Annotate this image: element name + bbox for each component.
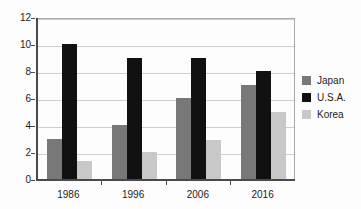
legend-label: Korea	[317, 109, 344, 120]
x-tick-mark	[101, 181, 102, 185]
legend-item: Korea	[302, 106, 360, 123]
y-tick-label: 6	[3, 94, 31, 104]
chart-legend: JapanU.S.A.Korea	[302, 72, 360, 123]
y-axis-line	[36, 18, 38, 180]
bar	[62, 44, 77, 179]
legend-item: Japan	[302, 72, 360, 89]
y-tick-mark	[31, 45, 35, 46]
x-tick-label: 2006	[187, 189, 209, 200]
bar	[112, 125, 127, 179]
bar	[256, 71, 271, 179]
bar	[241, 85, 256, 180]
y-tick-mark	[31, 18, 35, 19]
y-tick-label: 4	[3, 121, 31, 131]
bar	[127, 58, 142, 180]
legend-label: Japan	[317, 75, 344, 86]
bar	[191, 58, 206, 180]
x-tick-mark	[166, 181, 167, 185]
x-tick-label: 2016	[252, 189, 274, 200]
y-tick-label: 12	[3, 13, 31, 23]
x-tick-mark	[230, 181, 231, 185]
bar	[271, 112, 286, 180]
bar	[77, 161, 92, 179]
bar	[47, 139, 62, 180]
y-tick-label: 10	[3, 40, 31, 50]
y-tick-label: 8	[3, 67, 31, 77]
bar	[142, 152, 157, 179]
y-tick-mark	[31, 99, 35, 100]
y-axis-tick-labels: 024681012	[0, 18, 31, 180]
y-tick-mark	[31, 180, 35, 181]
legend-swatch-icon	[302, 110, 311, 119]
legend-swatch-icon	[302, 93, 311, 102]
bar-chart: 024681012 1986199620062016 JapanU.S.A.Ko…	[0, 0, 361, 209]
plot-area	[36, 18, 295, 180]
gridline	[37, 19, 294, 20]
bar	[206, 140, 221, 179]
y-tick-label: 0	[3, 175, 31, 185]
bar	[176, 98, 191, 179]
y-tick-mark	[31, 153, 35, 154]
x-tick-label: 1986	[57, 189, 79, 200]
y-tick-label: 2	[3, 148, 31, 158]
legend-label: U.S.A.	[317, 92, 346, 103]
x-tick-label: 1996	[122, 189, 144, 200]
y-tick-mark	[31, 126, 35, 127]
y-tick-mark	[31, 72, 35, 73]
legend-swatch-icon	[302, 76, 311, 85]
legend-item: U.S.A.	[302, 89, 360, 106]
